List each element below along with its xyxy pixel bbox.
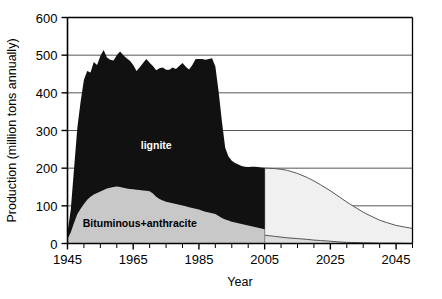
x-tick-label: 2005 — [250, 252, 279, 267]
y-tick-label: 600 — [36, 11, 58, 26]
x-tick-label: 2025 — [316, 252, 345, 267]
x-tick-label: 1965 — [119, 252, 148, 267]
y-axis-title: Production (million tons annually) — [5, 38, 19, 222]
y-tick-label: 200 — [36, 161, 58, 176]
y-tick-label: 0 — [50, 237, 57, 252]
y-tick-label: 100 — [36, 199, 58, 214]
y-tick-label: 300 — [36, 124, 58, 139]
bituminous-anthracite-label: Bituminous+anthracite — [83, 217, 197, 229]
y-tick-label: 500 — [36, 48, 58, 63]
chart-container: 194519651985200520252045 010020030040050… — [0, 0, 442, 299]
y-tick-label: 400 — [36, 86, 58, 101]
lignite-label: lignite — [141, 139, 172, 151]
x-tick-label: 1945 — [53, 252, 82, 267]
x-axis-title: Year — [227, 275, 252, 289]
x-tick-label: 2045 — [382, 252, 411, 267]
x-tick-label: 1985 — [184, 252, 213, 267]
production-area-chart: 194519651985200520252045 010020030040050… — [0, 0, 442, 299]
